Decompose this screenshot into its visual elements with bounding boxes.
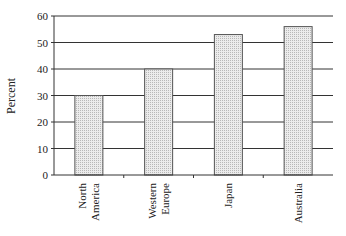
bar-north-america [75,96,103,176]
svg-text:America: America [89,183,101,221]
y-tick-label: 30 [37,90,49,102]
svg-text:Japan: Japan [222,183,234,209]
svg-text:Western: Western [146,183,158,219]
x-tick-label: Australia [292,183,304,223]
bar-australia [284,27,312,175]
x-tick-label: Japan [222,183,234,209]
bar-chart: 0102030405060 NorthAmericaWesternEuropeJ… [0,0,346,236]
svg-text:Australia: Australia [292,183,304,223]
y-tick-label: 0 [43,169,49,181]
svg-text:North: North [76,183,88,209]
y-axis-title: Percent [4,77,18,114]
y-axis-ticks: 0102030405060 [37,10,54,181]
x-tick-label: NorthAmerica [76,183,101,221]
y-tick-label: 50 [37,37,49,49]
y-tick-label: 60 [37,10,49,22]
bar-western-europe [145,69,173,175]
x-axis-labels: NorthAmericaWesternEuropeJapanAustralia [76,183,304,224]
y-tick-label: 20 [37,116,49,128]
bar-japan [214,35,242,175]
svg-text:Europe: Europe [159,183,171,215]
y-tick-label: 10 [37,143,49,155]
y-tick-label: 40 [37,63,49,75]
bars [75,27,312,175]
x-tick-label: WesternEurope [146,183,171,219]
